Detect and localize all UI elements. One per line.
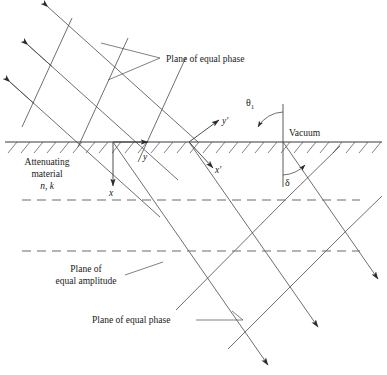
incident-wavefront-lines: [22, 18, 186, 162]
equal-amplitude-dashed-lines: [22, 200, 360, 251]
label-plane-of-equal-phase-top: Plane of equal phase: [166, 54, 244, 64]
label-attenuating-material-line2: material: [31, 169, 62, 179]
leader-equal-phase-top-b: [108, 58, 160, 80]
incident-ray-1: [48, 7, 198, 142]
text-labels-group: Plane of equal phase θ1 Vacuum δ y x y′ …: [25, 54, 321, 325]
angle-arcs-group: [258, 112, 305, 175]
label-plane-of-equal-amplitude-line2: equal amplitude: [56, 276, 117, 286]
leader-equal-phase-top-a: [101, 43, 160, 58]
label-axis-y-prime: y′: [221, 116, 229, 126]
label-axis-x: x: [108, 188, 114, 198]
ray-diagram-svg: Plane of equal phase θ1 Vacuum δ y x y′ …: [0, 0, 387, 375]
refracted-wavefront-4: [345, 196, 382, 232]
incident-wavefront-2: [78, 38, 128, 147]
refracted-wavefront-1: [176, 196, 289, 310]
refracted-wavefront-2: [228, 232, 345, 349]
incident-wavefront-3: [138, 57, 186, 162]
label-axis-y: y: [142, 152, 148, 162]
incident-rays-group: [10, 7, 198, 217]
axis-y-prime-line: [189, 120, 219, 142]
label-delta: δ: [285, 177, 290, 188]
delta-arc: [283, 165, 305, 175]
label-plane-of-equal-phase-bottom: Plane of equal phase: [92, 315, 170, 325]
label-theta1: θ1: [246, 97, 255, 111]
axis-x-prime-line: [189, 142, 213, 168]
label-attenuating-material-nk: n, k: [40, 181, 55, 191]
leader-lines-group: [101, 43, 243, 320]
primed-axes-group: [189, 120, 219, 168]
figure-container: Plane of equal phase θ1 Vacuum δ y x y′ …: [0, 0, 387, 375]
label-attenuating-material-line1: Attenuating: [25, 157, 70, 167]
leader-equal-amplitude: [125, 262, 163, 275]
label-vacuum: Vacuum: [289, 128, 321, 138]
incident-ray-3-head: [10, 82, 34, 104]
incident-ray-2-head: [28, 45, 52, 67]
label-axis-x-prime: x′: [214, 165, 222, 175]
theta1-arc: [258, 112, 283, 127]
incident-ray-arrowheads: [10, 45, 52, 104]
incident-wavefront-1: [22, 18, 72, 127]
refracted-ray-3: [283, 142, 378, 279]
refracted-wavefront-lines: [176, 146, 382, 349]
label-plane-of-equal-amplitude-line1: Plane of: [70, 264, 102, 274]
refracted-ray-1: [113, 142, 268, 365]
